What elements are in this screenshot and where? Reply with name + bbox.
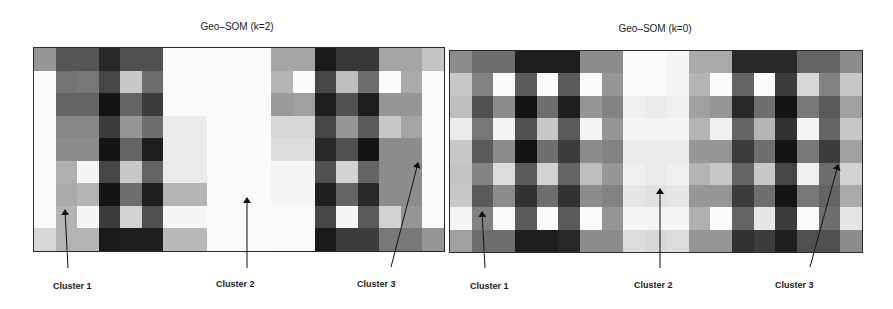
arrow-cluster-1-panel-1-icon [65,210,68,268]
cluster-arrows [0,0,893,309]
arrow-cluster-3-panel-2-icon [810,165,838,267]
arrow-cluster-3-panel-1-icon [391,163,418,267]
arrow-cluster-1-panel-2-icon [482,212,485,268]
